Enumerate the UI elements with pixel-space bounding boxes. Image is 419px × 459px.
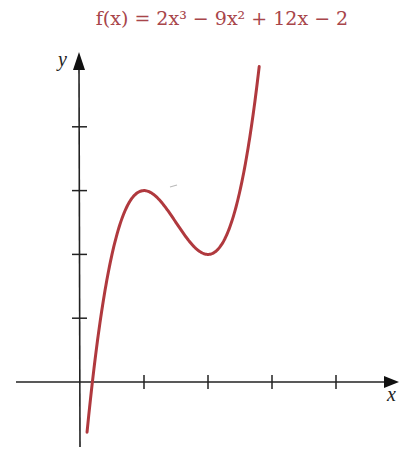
- function-curve: [87, 67, 259, 433]
- x-axis-label: x: [386, 383, 396, 405]
- function-plot: f(x) = 2x³ − 9x² + 12x − 2 x y: [0, 0, 419, 459]
- stray-mark: [170, 185, 177, 187]
- y-axis-arrow-icon: [73, 52, 85, 70]
- y-axis-label: y: [56, 48, 67, 71]
- y-axis: y: [56, 48, 87, 447]
- chart-title: f(x) = 2x³ − 9x² + 12x − 2: [96, 7, 348, 29]
- x-axis: x: [16, 375, 399, 405]
